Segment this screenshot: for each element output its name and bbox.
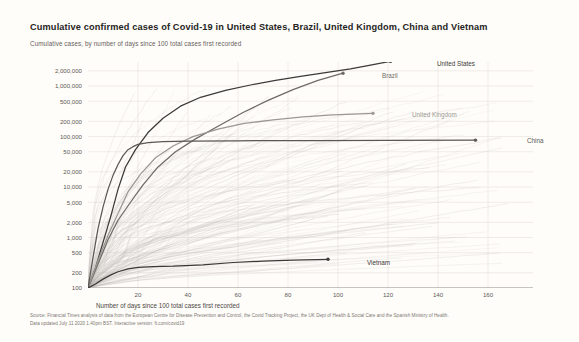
y-axis-tick-label: 20,000 [22, 168, 82, 175]
y-axis-tick-label: 500 [22, 249, 82, 256]
y-axis-tick-label: 5,000 [22, 199, 82, 206]
y-axis-tick-label: 200 [22, 269, 82, 276]
series-label-united-states: United States [437, 60, 475, 67]
series-label-china: China [527, 137, 543, 144]
x-axis-tick-label: 20 [118, 291, 158, 298]
y-axis-tick-label: 100 [22, 284, 82, 291]
x-axis-tick-label: 160 [468, 291, 508, 298]
chart-card: Cumulative confirmed cases of Covid-19 i… [0, 0, 579, 342]
y-axis-tick-label: 500,000 [22, 98, 82, 105]
y-axis-tick-label: 2,000,000 [22, 67, 82, 74]
y-axis-tick-label: 200,000 [22, 118, 82, 125]
chart-subtitle: Cumulative cases, by number of days sinc… [30, 40, 241, 47]
plot-area [88, 62, 533, 288]
y-axis-tick-label: 100,000 [22, 133, 82, 140]
series-label-united-kingdom: United Kingdom [412, 111, 457, 118]
series-label-vietnam: Vietnam [367, 259, 390, 266]
x-axis-tick-label: 60 [218, 291, 258, 298]
x-axis-tick-label: 80 [268, 291, 308, 298]
source-note-line-1: Source: Financial Times analysis of data… [30, 313, 449, 318]
y-axis-tick-label: 1,000 [22, 234, 82, 241]
source-note-line-2: Data updated July 11 2020 1.40pm BST. In… [30, 321, 184, 326]
x-axis-tick-label: 100 [318, 291, 358, 298]
x-axis-title: Number of days since 100 total cases fir… [96, 302, 240, 309]
series-label-brazil: Brazil [382, 72, 398, 79]
x-axis-tick-label: 140 [418, 291, 458, 298]
chart-canvas [88, 62, 533, 288]
x-axis-tick-label: 40 [168, 291, 208, 298]
chart-title: Cumulative confirmed cases of Covid-19 i… [30, 22, 488, 32]
y-axis-tick-label: 2,000 [22, 219, 82, 226]
y-axis-tick-label: 1,000,000 [22, 82, 82, 89]
y-axis-tick-label: 10,000 [22, 183, 82, 190]
y-axis-tick-label: 50,000 [22, 148, 82, 155]
x-axis-tick-label: 120 [368, 291, 408, 298]
